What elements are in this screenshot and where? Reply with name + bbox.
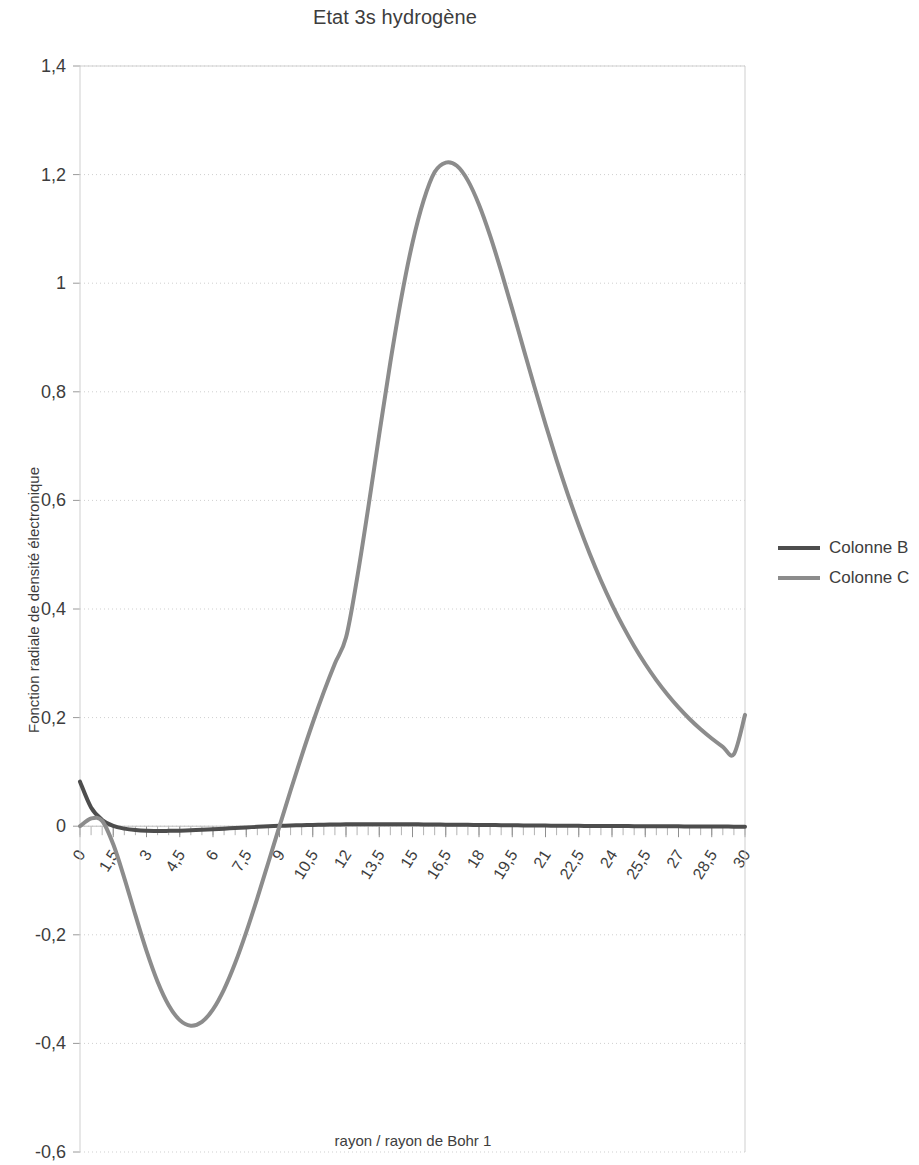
y-tick-label: 0 [56,816,66,836]
legend-swatch-colonne-c [778,576,820,580]
y-axis-title: Fonction radiale de densité électronique [25,400,42,800]
legend-item-colonne-c[interactable]: Colonne C [778,563,918,593]
x-tick-label: 3 [136,847,155,864]
x-tick-label: 30 [730,847,754,871]
series-lines [80,162,745,1025]
y-tick-label: 0,6 [41,490,66,510]
chart-container: Etat 3s hydrogène 1,41,210,80,60,40,20-0… [0,0,919,1165]
x-axis-title: rayon / rayon de Bohr 1 [80,1132,746,1149]
legend-label-colonne-c: Colonne C [829,568,909,588]
x-tick-label: 13,5 [357,847,388,883]
x-tick-labels: 01,534,567,5910,51213,51516,51819,52122,… [69,847,753,883]
x-tick-label: 24 [597,847,621,871]
x-tick-label: 22,5 [556,847,587,883]
x-tick-label: 16,5 [423,847,454,883]
y-tick-label: 1 [56,273,66,293]
x-tick-label: 21 [530,847,554,871]
y-tick-label: 1,4 [41,56,66,76]
y-tick-label: -0,6 [35,1142,66,1162]
y-tick-label: -0,2 [35,925,66,945]
x-tick-label: 7,5 [229,847,255,875]
x-tick-label: 12 [331,847,355,871]
x-tick-label: 0 [69,847,88,864]
y-tick-label: 0,4 [41,599,66,619]
gridlines [73,66,745,1152]
series-line-colonne-b [80,782,745,831]
x-tick-label: 25,5 [623,847,654,883]
x-tick-label: 28,5 [689,847,720,883]
x-tick-label: 6 [202,847,221,864]
y-tick-label: 1,2 [41,165,66,185]
y-tick-label: 0,8 [41,382,66,402]
x-tick-label: 4,5 [162,847,188,875]
y-tick-label: -0,4 [35,1033,66,1053]
legend-item-colonne-b[interactable]: Colonne B [778,533,918,563]
x-tick-label: 19,5 [490,847,521,883]
x-tick-label: 18 [464,847,488,871]
legend-swatch-colonne-b [778,546,820,550]
y-tick-label: 0,2 [41,708,66,728]
legend-label-colonne-b: Colonne B [829,538,908,558]
x-tick-label: 27 [663,847,687,871]
x-tick-label: 15 [397,847,421,871]
series-line-colonne-c [80,162,745,1025]
legend: Colonne B Colonne C [778,533,918,593]
x-tick-label: 10,5 [290,847,321,883]
